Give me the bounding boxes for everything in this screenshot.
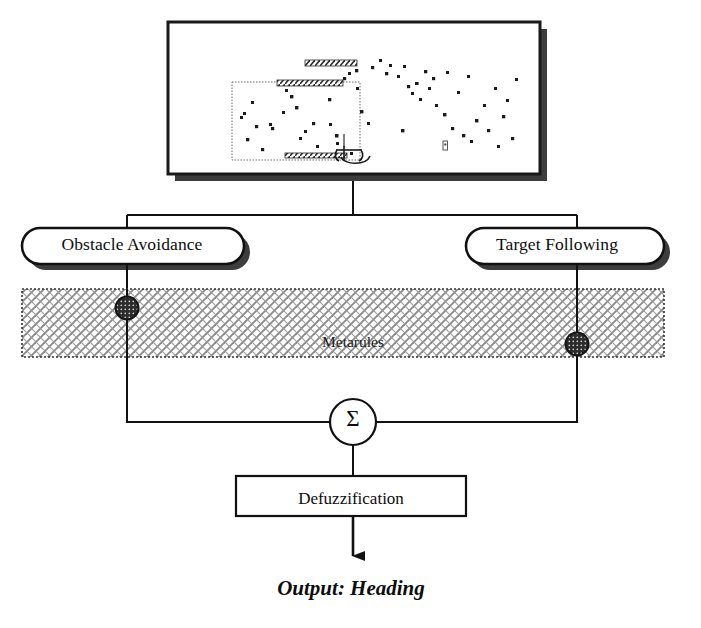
summation-node[interactable] — [330, 399, 376, 445]
metarule-node-left[interactable] — [116, 297, 139, 320]
defuzzification-rect — [236, 476, 466, 516]
fuzzy-behaviour-diagram: Obstacle Avoidance Target Following Meta… — [0, 0, 701, 628]
behaviour-target-following[interactable] — [466, 228, 670, 270]
simulation-panel-frame — [168, 22, 540, 174]
metarule-node-right[interactable] — [566, 333, 589, 356]
diagram-canvas — [0, 0, 701, 628]
robot-simulation-panel[interactable] — [168, 22, 547, 181]
behaviour-obstacle-avoidance[interactable] — [22, 228, 250, 270]
connector-panel-to-behaviours — [127, 181, 577, 230]
target-following-shape — [466, 228, 664, 264]
defuzzification-box[interactable] — [236, 476, 466, 516]
obstacle-avoidance-shape — [22, 228, 244, 264]
summation-circle — [330, 399, 376, 445]
